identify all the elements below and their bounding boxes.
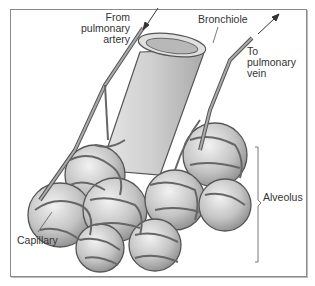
label-to-pulmonary-vein: To pulmonary vein bbox=[247, 46, 296, 79]
label-alveolus: Alveolus bbox=[263, 192, 303, 203]
label-bronchiole: Bronchiole bbox=[198, 14, 248, 25]
label-line: vein bbox=[247, 68, 296, 79]
label-capillary: Capillary bbox=[17, 235, 58, 246]
label-from-pulmonary-artery: From pulmonary artery bbox=[62, 12, 130, 45]
label-line: artery bbox=[62, 34, 130, 45]
